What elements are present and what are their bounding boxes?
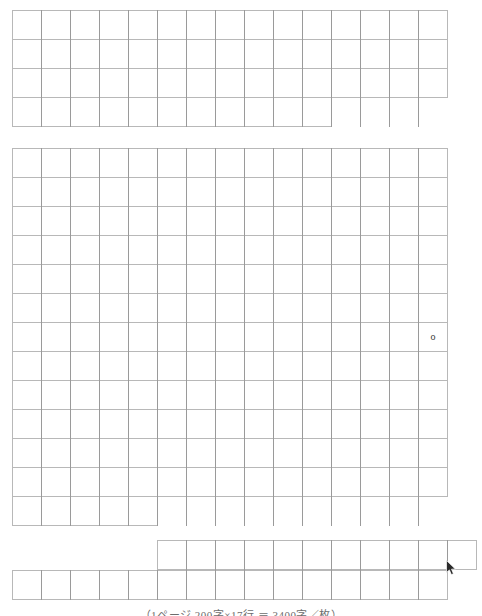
writing-cell[interactable] [129,322,158,351]
writing-cell[interactable] [13,380,42,409]
writing-cell[interactable] [42,149,71,177]
writing-cell[interactable] [129,351,158,380]
writing-row[interactable] [12,351,448,381]
writing-row[interactable] [12,380,448,410]
writing-cell[interactable] [274,322,303,351]
writing-cell[interactable] [158,235,187,264]
writing-cell[interactable] [216,177,245,206]
writing-cell[interactable] [187,206,216,235]
writing-cell[interactable] [187,438,216,467]
writing-cell[interactable] [42,438,71,467]
writing-cell[interactable] [129,39,158,68]
writing-cell[interactable] [100,409,129,438]
writing-cell[interactable] [158,541,187,569]
writing-cell[interactable] [13,293,42,322]
writing-cell[interactable] [187,177,216,206]
writing-cell[interactable] [390,322,419,351]
writing-cell[interactable] [13,11,42,39]
writing-cell[interactable] [361,571,390,599]
writing-cell[interactable] [100,293,129,322]
writing-cell[interactable] [71,264,100,293]
writing-row[interactable] [12,97,332,127]
writing-cell[interactable] [100,438,129,467]
writing-cell[interactable] [158,11,187,39]
writing-cell[interactable] [361,149,390,177]
writing-cell[interactable] [158,571,187,599]
writing-cell[interactable] [13,438,42,467]
writing-cell[interactable] [332,409,361,438]
writing-cell[interactable] [303,235,332,264]
writing-cell[interactable] [187,293,216,322]
writing-row[interactable] [12,496,158,526]
writing-cell[interactable] [13,467,42,496]
writing-cell[interactable] [216,11,245,39]
writing-cell[interactable] [361,380,390,409]
writing-cell[interactable] [158,438,187,467]
writing-cell[interactable] [158,68,187,97]
writing-cell[interactable] [216,541,245,569]
writing-cell[interactable] [13,322,42,351]
writing-cell[interactable] [274,39,303,68]
writing-cell[interactable] [158,177,187,206]
writing-cell[interactable] [303,206,332,235]
writing-cell[interactable] [129,11,158,39]
writing-cell[interactable] [332,322,361,351]
writing-cell[interactable] [42,351,71,380]
writing-cell[interactable] [71,206,100,235]
writing-cell[interactable] [71,149,100,177]
writing-cell[interactable] [274,293,303,322]
writing-cell[interactable] [361,541,390,569]
writing-cell[interactable] [332,541,361,569]
writing-cell[interactable] [419,438,448,467]
writing-cell[interactable] [129,97,158,126]
writing-cell[interactable] [71,39,100,68]
writing-cell[interactable] [216,206,245,235]
writing-cell[interactable] [390,206,419,235]
writing-cell[interactable] [187,541,216,569]
writing-cell[interactable] [274,467,303,496]
writing-cell[interactable] [71,409,100,438]
writing-cell[interactable] [361,438,390,467]
writing-cell[interactable] [100,467,129,496]
writing-cell[interactable] [129,206,158,235]
writing-cell[interactable] [42,467,71,496]
writing-cell[interactable] [303,467,332,496]
writing-cell[interactable] [13,235,42,264]
writing-cell[interactable] [187,571,216,599]
writing-cell[interactable] [419,541,448,569]
writing-cell[interactable] [245,293,274,322]
writing-cell[interactable] [390,264,419,293]
writing-cell[interactable] [129,571,158,599]
writing-cell[interactable] [216,68,245,97]
writing-cell[interactable] [390,39,419,68]
writing-cell[interactable] [419,409,448,438]
writing-cell[interactable] [245,206,274,235]
writing-cell[interactable] [332,571,361,599]
writing-cell[interactable] [42,496,71,525]
writing-cell[interactable] [100,177,129,206]
writing-cell[interactable] [419,235,448,264]
writing-cell[interactable] [390,571,419,599]
writing-cell[interactable] [274,409,303,438]
writing-cell[interactable] [419,264,448,293]
writing-cell[interactable] [187,264,216,293]
writing-cell[interactable] [332,380,361,409]
writing-cell[interactable] [13,39,42,68]
writing-cell[interactable] [332,467,361,496]
writing-cell[interactable] [42,322,71,351]
writing-cell[interactable] [42,235,71,264]
writing-cell[interactable] [274,177,303,206]
writing-cell[interactable] [332,177,361,206]
writing-cell[interactable] [390,380,419,409]
writing-cell[interactable] [390,438,419,467]
writing-cell[interactable] [216,571,245,599]
writing-cell[interactable] [361,177,390,206]
writing-cell[interactable] [332,149,361,177]
writing-cell[interactable] [332,351,361,380]
writing-cell[interactable] [13,409,42,438]
writing-cell[interactable] [419,571,448,599]
writing-cell[interactable] [100,97,129,126]
writing-cell[interactable] [13,97,42,126]
writing-row[interactable] [12,438,448,468]
writing-cell[interactable] [158,409,187,438]
